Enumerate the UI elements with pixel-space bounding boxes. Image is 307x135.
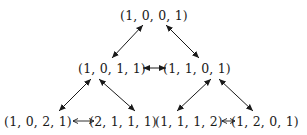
diagram-canvas: (1, 0, 0, 1) (1, 0, 1, 1) (1, 1, 0, 1) (… — [0, 0, 307, 135]
node-1-0-2-1: (1, 0, 2, 1) — [4, 114, 72, 129]
edge-1001-1011 — [112, 25, 143, 58]
edge-1101-1112 — [177, 79, 211, 111]
edge-1011-2111 — [99, 79, 135, 111]
node-1-0-1-1: (1, 0, 1, 1) — [78, 61, 146, 76]
node-1-0-0-1: (1, 0, 0, 1) — [120, 8, 188, 23]
edge-1001-1101 — [166, 25, 199, 58]
node-1-2-0-1: (1, 2, 0, 1) — [231, 114, 299, 129]
node-2-1-1-1: (2, 1, 1, 1) — [89, 114, 157, 129]
edge-1011-1021 — [59, 79, 91, 111]
edge-1101-1201 — [219, 79, 253, 111]
node-1-1-0-1: (1, 1, 0, 1) — [163, 61, 231, 76]
node-1-1-1-2: (1, 1, 1, 2) — [155, 114, 223, 129]
